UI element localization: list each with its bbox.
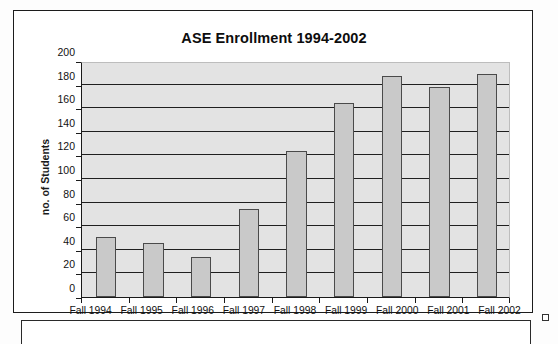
bar[interactable] <box>429 87 449 297</box>
plot-area <box>81 62 510 298</box>
y-axis-tick-label: 200 <box>43 47 75 57</box>
x-axis-tick-mark <box>319 298 320 303</box>
x-axis-tick-label: Fall 1997 <box>218 305 269 321</box>
x-axis-tick-label: Fall 1999 <box>321 305 372 321</box>
bar[interactable] <box>334 103 354 297</box>
y-axis-tick-label: 140 <box>43 118 75 128</box>
x-axis-tick-label: Fall 2002 <box>474 305 525 321</box>
bar[interactable] <box>96 237 116 297</box>
bar[interactable] <box>191 257 211 297</box>
y-axis-tick-label: 80 <box>43 189 75 199</box>
y-axis-tick-label: 0 <box>43 283 75 293</box>
y-axis-tick-mark <box>76 251 81 252</box>
x-axis-tick-label: Fall 1996 <box>167 305 218 321</box>
y-axis-tick-label: 40 <box>43 236 75 246</box>
x-axis-tick-label: Fall 2001 <box>423 305 474 321</box>
plot-area-wrapper <box>81 62 510 298</box>
y-axis-tick-mark <box>76 274 81 275</box>
chart-title: ASE Enrollment 1994-2002 <box>14 30 534 46</box>
x-axis-tick-label: Fall 2000 <box>372 305 423 321</box>
bar[interactable] <box>382 76 402 297</box>
y-axis-tick-label: 20 <box>43 259 75 269</box>
x-axis-tick-mark <box>415 298 416 303</box>
y-axis-tick-label: 180 <box>43 71 75 81</box>
x-axis-tick-mark <box>224 298 225 303</box>
x-axis-tick-label: Fall 1994 <box>65 305 116 321</box>
y-axis-tick-mark <box>76 109 81 110</box>
bar[interactable] <box>143 243 163 297</box>
x-axis-tick-labels: Fall 1994Fall 1995Fall 1996Fall 1997Fall… <box>65 305 525 321</box>
lower-object-frame[interactable] <box>21 320 531 344</box>
x-axis-tick-mark <box>129 298 130 303</box>
x-axis-tick-mark <box>462 298 463 303</box>
x-axis-tick-mark <box>367 298 368 303</box>
y-axis-tick-mark <box>76 62 81 63</box>
x-axis-tick-mark <box>272 298 273 303</box>
scanned-page: ASE Enrollment 1994-2002 no. of Students… <box>0 0 558 344</box>
y-axis-tick-label: 120 <box>43 141 75 151</box>
y-axis-tick-mark <box>76 86 81 87</box>
x-axis-tick-label: Fall 1998 <box>269 305 320 321</box>
x-axis-tick-mark <box>176 298 177 303</box>
x-axis-tick-mark <box>509 298 510 303</box>
y-axis-tick-labels: 020406080100120140160180200 <box>39 62 75 298</box>
y-axis-tick-label: 160 <box>43 94 75 104</box>
x-axis-tick-label: Fall 1995 <box>116 305 167 321</box>
y-axis-tick-mark <box>76 133 81 134</box>
x-axis-tick-mark <box>81 298 82 303</box>
bar-series <box>82 63 509 297</box>
resize-handle-icon[interactable] <box>542 314 549 321</box>
bar[interactable] <box>286 151 306 297</box>
y-axis-tick-mark <box>76 298 81 299</box>
y-axis-tick-mark <box>76 180 81 181</box>
y-axis-tick-mark <box>76 204 81 205</box>
y-axis-tick-label: 60 <box>43 212 75 222</box>
bar[interactable] <box>477 74 497 297</box>
y-axis-tick-mark <box>76 227 81 228</box>
chart-object-frame[interactable]: ASE Enrollment 1994-2002 no. of Students… <box>13 10 533 313</box>
y-axis-tick-label: 100 <box>43 165 75 175</box>
y-axis-tick-mark <box>76 156 81 157</box>
x-axis-tick-marks <box>81 298 510 304</box>
bar[interactable] <box>239 209 259 298</box>
